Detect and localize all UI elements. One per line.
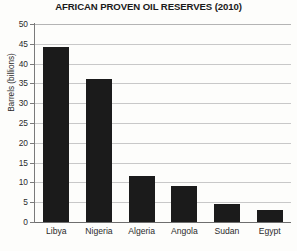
x-tick-label-libya: Libya (35, 226, 78, 236)
chart-title: AFRICAN PROVEN OIL RESERVES (2010) (0, 1, 297, 12)
bar-angola (171, 186, 197, 222)
y-tick-mark (30, 24, 35, 25)
gridline (35, 182, 291, 183)
gridline (35, 24, 291, 25)
y-axis-tick-labels: 05101520253035404550 (0, 24, 28, 222)
plot-area (35, 24, 291, 222)
gridline (35, 123, 291, 124)
gridline (35, 143, 291, 144)
y-tick-mark (30, 64, 35, 65)
gridline (35, 202, 291, 203)
gridline (35, 163, 291, 164)
x-tick-label-angola: Angola (163, 226, 206, 236)
y-tick-mark (30, 163, 35, 164)
x-tick-label-nigeria: Nigeria (78, 226, 121, 236)
y-tick-mark (30, 83, 35, 84)
y-tick-mark (30, 202, 35, 203)
bar-nigeria (86, 79, 112, 222)
chart-figure: AFRICAN PROVEN OIL RESERVES (2010) Barre… (0, 0, 297, 251)
y-tick-label: 45 (4, 40, 28, 48)
y-tick-label: 0 (4, 218, 28, 226)
y-tick-mark (30, 44, 35, 45)
y-tick-mark (30, 143, 35, 144)
bar-sudan (214, 204, 240, 222)
x-tick-label-sudan: Sudan (206, 226, 249, 236)
gridline (35, 83, 291, 84)
y-tick-label: 25 (4, 119, 28, 127)
y-tick-label: 40 (4, 59, 28, 67)
y-tick-mark (30, 222, 35, 223)
y-tick-label: 20 (4, 139, 28, 147)
x-tick-label-algeria: Algeria (120, 226, 163, 236)
y-tick-label: 50 (4, 20, 28, 28)
y-tick-mark (30, 182, 35, 183)
y-tick-mark (30, 103, 35, 104)
bar-egypt (257, 210, 283, 222)
y-tick-label: 5 (4, 198, 28, 206)
gridline (35, 44, 291, 45)
bar-algeria (129, 176, 155, 222)
gridline (35, 103, 291, 104)
y-tick-label: 35 (4, 79, 28, 87)
y-tick-label: 30 (4, 99, 28, 107)
x-tick-label-egypt: Egypt (248, 226, 291, 236)
x-axis-baseline (35, 222, 291, 223)
y-tick-mark (30, 123, 35, 124)
y-tick-label: 15 (4, 158, 28, 166)
x-axis-tick-labels: LibyaNigeriaAlgeriaAngolaSudanEgypt (35, 226, 291, 242)
bar-libya (43, 47, 69, 222)
y-tick-label: 10 (4, 178, 28, 186)
gridline (35, 64, 291, 65)
